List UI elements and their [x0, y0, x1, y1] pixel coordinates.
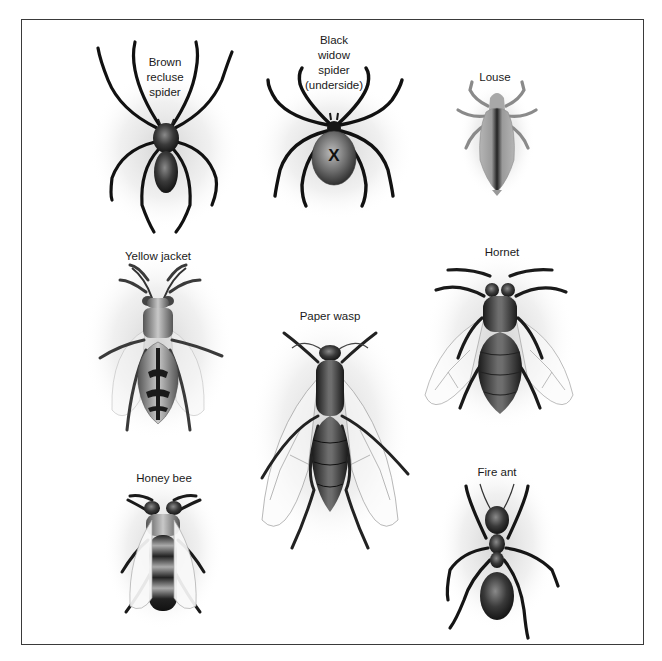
label-line: Fire ant [478, 465, 517, 480]
label-black-widow-spider: Black widow spider (underside) [305, 33, 363, 93]
insect-illustrations: X [0, 0, 662, 661]
hourglass-marking: X [328, 146, 340, 165]
label-line: Brown [146, 55, 183, 70]
label-line: Hornet [485, 245, 520, 260]
louse-illustration [458, 82, 536, 198]
yellow-jacket-illustration [83, 250, 233, 440]
label-line: recluse [146, 70, 183, 85]
label-paper-wasp: Paper wasp [300, 309, 361, 324]
label-line: Black [305, 33, 363, 48]
label-louse: Louse [479, 70, 510, 85]
hornet-illustration [425, 250, 575, 430]
label-line: (underside) [305, 78, 363, 93]
fire-ant-illustration [437, 460, 558, 638]
label-line: Louse [479, 70, 510, 85]
label-line: spider [305, 63, 363, 78]
label-line: spider [146, 85, 183, 100]
label-brown-recluse-spider: Brown recluse spider [146, 55, 183, 100]
label-line: Paper wasp [300, 309, 361, 324]
paper-wasp-illustration [250, 310, 410, 550]
label-yellow-jacket: Yellow jacket [125, 249, 191, 264]
figure-stage: X [0, 0, 662, 661]
label-hornet: Hornet [485, 245, 520, 260]
label-line: Honey bee [136, 471, 192, 486]
label-line: widow [305, 48, 363, 63]
label-fire-ant: Fire ant [478, 465, 517, 480]
honey-bee-illustration [103, 470, 223, 630]
label-line: Yellow jacket [125, 249, 191, 264]
label-honey-bee: Honey bee [136, 471, 192, 486]
